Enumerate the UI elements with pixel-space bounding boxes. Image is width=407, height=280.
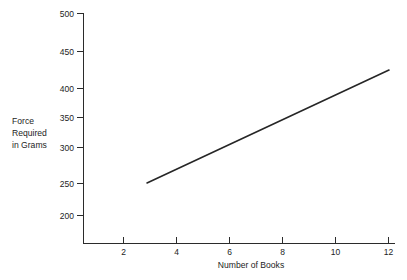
x-tick-label-8: 8 [280,247,285,257]
x-tick-label-2: 2 [121,247,126,257]
x-tick-label-4: 4 [174,247,179,257]
y-tick-label-350: 350 [60,113,74,123]
chart-background [0,0,407,280]
y-tick-label-400: 400 [60,84,74,94]
y-axis-title-line-1: Force [12,116,34,126]
y-axis-title-line-2: Required [12,128,47,138]
x-tick-label-10: 10 [331,247,341,257]
y-tick-label-200: 200 [60,211,74,221]
y-tick-label-300: 300 [60,143,74,153]
x-tick-label-12: 12 [384,247,394,257]
y-tick-label-500: 500 [60,9,74,19]
chart-page: 500 450 400 350 300 250 200 2 4 6 8 10 1… [0,0,407,280]
force-vs-books-line-chart: 500 450 400 350 300 250 200 2 4 6 8 10 1… [0,0,407,280]
x-axis-title: Number of Books [218,260,284,270]
y-tick-label-450: 450 [60,47,74,57]
y-tick-label-250: 250 [60,179,74,189]
y-axis-title-line-3: in Grams [12,140,47,150]
x-tick-label-6: 6 [227,247,232,257]
